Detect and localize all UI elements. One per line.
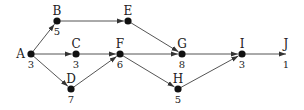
diagram-svg: A3B5C3D7EF6G8H5I3J1 bbox=[0, 0, 304, 110]
node-dot bbox=[174, 85, 181, 92]
node-label: F bbox=[116, 37, 124, 51]
node-weight: 3 bbox=[239, 59, 245, 70]
node-weight: 6 bbox=[117, 59, 123, 70]
node-G: G8 bbox=[177, 37, 187, 70]
node-E: E bbox=[124, 4, 133, 25]
node-D: D7 bbox=[66, 72, 76, 105]
node-B: B5 bbox=[53, 4, 62, 37]
node-weight: 5 bbox=[175, 94, 181, 105]
node-weight: 8 bbox=[179, 59, 185, 70]
edge-A-B bbox=[31, 24, 54, 54]
node-label: C bbox=[71, 37, 80, 51]
edge-E-G bbox=[128, 21, 179, 52]
node-weight: 3 bbox=[28, 59, 34, 70]
node-weight: 1 bbox=[283, 59, 289, 70]
node-weight: 5 bbox=[54, 26, 60, 37]
node-label: B bbox=[53, 4, 62, 18]
node-dot bbox=[67, 85, 74, 92]
node-label: G bbox=[177, 37, 187, 51]
node-label: E bbox=[124, 4, 133, 18]
edge-H-I bbox=[178, 56, 238, 89]
node-label: I bbox=[240, 37, 245, 51]
node-label: H bbox=[173, 72, 183, 86]
node-C: C3 bbox=[71, 37, 80, 70]
node-weight: 7 bbox=[68, 94, 74, 105]
node-dot bbox=[27, 50, 34, 57]
node-F: F6 bbox=[116, 37, 124, 70]
node-dot bbox=[116, 50, 123, 57]
edge-F-H bbox=[120, 54, 174, 87]
node-I: I3 bbox=[238, 37, 245, 70]
network-diagram: A3B5C3D7EF6G8H5I3J1 bbox=[0, 0, 304, 110]
node-dot bbox=[238, 50, 245, 57]
node-dot bbox=[53, 17, 60, 24]
node-label: A bbox=[15, 47, 25, 61]
edge-A-D bbox=[31, 54, 68, 86]
node-dot bbox=[178, 50, 185, 57]
node-A: A3 bbox=[15, 47, 34, 70]
node-weight: 3 bbox=[73, 59, 79, 70]
node-H: H5 bbox=[173, 72, 183, 105]
node-dot bbox=[124, 17, 131, 24]
node-label: D bbox=[66, 72, 76, 86]
node-label: J bbox=[282, 37, 289, 51]
node-dot bbox=[72, 50, 79, 57]
